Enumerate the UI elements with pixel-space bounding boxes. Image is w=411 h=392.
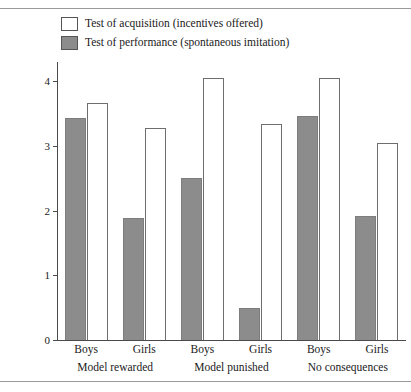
y-tick-mark <box>53 211 57 212</box>
x-tick-label-girls-1: Girls <box>133 344 156 356</box>
bar-acquisition-model-punished-boys <box>203 78 224 340</box>
y-tick-mark <box>53 81 57 82</box>
x-tick-label-girls-5: Girls <box>365 344 388 356</box>
plot-area: 01234 <box>57 62 406 340</box>
legend-swatch-open-icon <box>61 17 78 31</box>
chart-legend: Test of acquisition (incentives offered)… <box>61 14 289 52</box>
bar-performance-model-punished-girls <box>239 308 260 340</box>
bottom-divider-rule <box>0 381 411 382</box>
y-tick-mark <box>53 340 57 341</box>
x-tick-label-girls-3: Girls <box>249 344 272 356</box>
x-tick-label-boys-0: Boys <box>74 344 98 356</box>
bar-performance-model-rewarded-girls <box>123 218 144 340</box>
figure: Test of acquisition (incentives offered)… <box>0 0 411 392</box>
y-tick-mark <box>53 146 57 147</box>
bar-acquisition-no-consequences-boys <box>319 78 340 340</box>
group-label-model-punished: Model punished <box>194 362 268 374</box>
bar-performance-no-consequences-girls <box>355 216 376 340</box>
bar-acquisition-model-rewarded-girls <box>145 128 166 340</box>
legend-label-acquisition: Test of acquisition (incentives offered) <box>85 18 263 30</box>
group-label-no-consequences: No consequences <box>308 362 388 374</box>
bar-performance-no-consequences-boys <box>297 116 318 340</box>
legend-label-performance: Test of performance (spontaneous imitati… <box>85 37 289 49</box>
x-axis-line <box>57 340 406 341</box>
x-tick-label-boys-4: Boys <box>307 344 331 356</box>
x-axis-tick-labels: BoysGirlsBoysGirlsBoysGirls <box>57 344 406 360</box>
y-axis-line <box>57 62 58 341</box>
bar-performance-model-rewarded-boys <box>65 118 86 340</box>
bar-acquisition-model-rewarded-boys <box>87 103 108 340</box>
legend-item-acquisition: Test of acquisition (incentives offered) <box>61 14 289 33</box>
top-divider-rule <box>0 8 411 9</box>
x-axis-group-labels: Model rewardedModel punishedNo consequen… <box>57 362 406 378</box>
x-tick-label-boys-2: Boys <box>191 344 215 356</box>
y-tick-label: 2 <box>45 205 51 216</box>
y-tick-label: 4 <box>45 76 51 87</box>
y-tick-label: 1 <box>45 270 51 281</box>
bar-performance-model-punished-boys <box>181 178 202 340</box>
group-label-model-rewarded: Model rewarded <box>77 362 153 374</box>
legend-item-performance: Test of performance (spontaneous imitati… <box>61 33 289 52</box>
y-tick-mark <box>53 275 57 276</box>
y-tick-label: 3 <box>45 141 51 152</box>
bar-acquisition-no-consequences-girls <box>377 143 398 340</box>
bar-acquisition-model-punished-girls <box>261 124 282 340</box>
legend-swatch-filled-icon <box>61 36 78 50</box>
y-tick-label: 0 <box>45 335 51 346</box>
